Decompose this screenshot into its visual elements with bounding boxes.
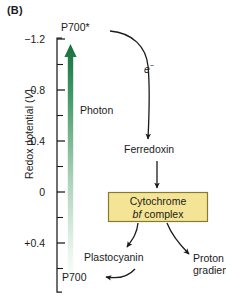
y-axis-major-ticks bbox=[57, 39, 65, 243]
cytochrome-line2: complex bbox=[141, 208, 183, 220]
proton-gradient-line2: gradient bbox=[193, 264, 226, 276]
y-axis-minor-ticks bbox=[57, 65, 63, 269]
cytochrome-line1: Cytochrome bbox=[130, 195, 187, 207]
y-axis bbox=[57, 38, 65, 292]
label-ferredoxin: Ferredoxin bbox=[124, 144, 174, 156]
cytochrome-to-plastocyanin-arrow bbox=[127, 223, 138, 247]
label-p700-excited: P700* bbox=[61, 22, 90, 34]
label-cytochrome-bf-complex: Cytochrome bf complex bbox=[108, 195, 208, 220]
label-p700-ground: P700 bbox=[62, 272, 87, 284]
label-photon: Photon bbox=[80, 105, 113, 117]
figure-panel: (B) Redox potential (V) −1.2 −0.8 −0.4 0… bbox=[0, 0, 226, 302]
electron-charge: − bbox=[150, 61, 154, 70]
label-plastocyanin: Plastocyanin bbox=[84, 252, 144, 264]
label-proton-gradient: Proton gradient bbox=[193, 252, 226, 276]
proton-gradient-line1: Proton bbox=[193, 252, 224, 264]
plastocyanin-to-p700-arrow bbox=[106, 269, 135, 278]
electron-transfer-arrow bbox=[110, 31, 149, 139]
photon-arrow bbox=[64, 44, 76, 282]
cytochrome-to-proton-gradient-arrow bbox=[167, 223, 189, 254]
label-electron: e− bbox=[144, 60, 154, 75]
